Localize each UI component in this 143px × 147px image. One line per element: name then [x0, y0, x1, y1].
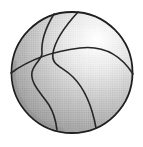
- basketball-illustration: [0, 0, 143, 147]
- basketball-svg: [0, 0, 143, 147]
